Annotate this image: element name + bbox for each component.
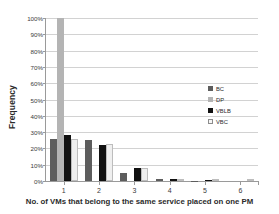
bar-vbc-2 bbox=[106, 144, 113, 181]
y-tick-label: 0% bbox=[17, 178, 43, 185]
bar-vblb-1 bbox=[64, 135, 71, 181]
x-tick-label: 1 bbox=[62, 187, 66, 194]
legend-label: VBLB bbox=[216, 108, 231, 114]
bar-vbc-3 bbox=[141, 168, 148, 181]
bar-bc-4 bbox=[156, 179, 163, 181]
legend-item-vbc[interactable]: VBC bbox=[208, 116, 254, 127]
legend-label: BC bbox=[216, 86, 224, 92]
x-tick-mark bbox=[64, 181, 65, 185]
bar-bc-3 bbox=[120, 173, 127, 181]
x-tick-mark bbox=[258, 181, 259, 185]
bar-vbc-6 bbox=[247, 179, 254, 181]
y-tick-label: 10% bbox=[17, 161, 43, 168]
y-tick-label: 80% bbox=[17, 47, 43, 54]
y-tick-label: 30% bbox=[17, 129, 43, 136]
y-tick-label: 100% bbox=[17, 15, 43, 22]
y-axis-title: Frequency bbox=[5, 64, 19, 150]
y-tick-label: 20% bbox=[17, 145, 43, 152]
bar-group bbox=[117, 18, 152, 181]
bar-bc-1 bbox=[50, 139, 57, 181]
legend-item-bc[interactable]: BC bbox=[208, 83, 254, 94]
x-tick-label: 2 bbox=[97, 187, 101, 194]
chart-legend: BCDPVBLBVBC bbox=[208, 83, 254, 127]
bar-group bbox=[46, 18, 81, 181]
legend-swatch-icon bbox=[208, 97, 213, 102]
legend-swatch-icon bbox=[208, 108, 213, 113]
legend-label: DP bbox=[216, 97, 224, 103]
x-tick-label: 4 bbox=[168, 187, 172, 194]
bar-vbc-4 bbox=[177, 179, 184, 181]
bar-vblb-5 bbox=[205, 180, 212, 181]
legend-item-vblb[interactable]: VBLB bbox=[208, 105, 254, 116]
y-tick-label: 60% bbox=[17, 80, 43, 87]
y-tick-label: 40% bbox=[17, 112, 43, 119]
bar-vblb-3 bbox=[134, 168, 141, 181]
x-tick-mark bbox=[170, 181, 171, 185]
bar-vblb-4 bbox=[170, 179, 177, 181]
bar-vbc-5 bbox=[212, 179, 219, 181]
y-tick-label: 70% bbox=[17, 63, 43, 70]
x-tick-label: 5 bbox=[203, 187, 207, 194]
x-tick-mark bbox=[240, 181, 241, 185]
y-tick-label: 90% bbox=[17, 31, 43, 38]
bar-vblb-2 bbox=[99, 145, 106, 181]
legend-item-dp[interactable]: DP bbox=[208, 94, 254, 105]
bar-group bbox=[81, 18, 116, 181]
legend-swatch-icon bbox=[208, 86, 213, 91]
y-tick-label: 50% bbox=[17, 96, 43, 103]
bar-group bbox=[152, 18, 187, 181]
bar-vbc-1 bbox=[71, 139, 78, 181]
x-tick-mark bbox=[134, 181, 135, 185]
bar-chart-figure: Frequency 0%10%20%30%40%50%60%70%80%90%1… bbox=[0, 0, 279, 214]
legend-label: VBC bbox=[216, 119, 228, 125]
x-tick-label: 3 bbox=[132, 187, 136, 194]
x-axis-title: No. of VMs that belong to the same servi… bbox=[0, 197, 279, 206]
x-tick-mark bbox=[99, 181, 100, 185]
bar-dp-1 bbox=[57, 18, 64, 181]
x-tick-mark bbox=[205, 181, 206, 185]
bar-bc-2 bbox=[85, 140, 92, 181]
legend-swatch-icon bbox=[208, 119, 213, 124]
y-tick-mark bbox=[43, 181, 46, 182]
x-tick-label: 6 bbox=[238, 187, 242, 194]
